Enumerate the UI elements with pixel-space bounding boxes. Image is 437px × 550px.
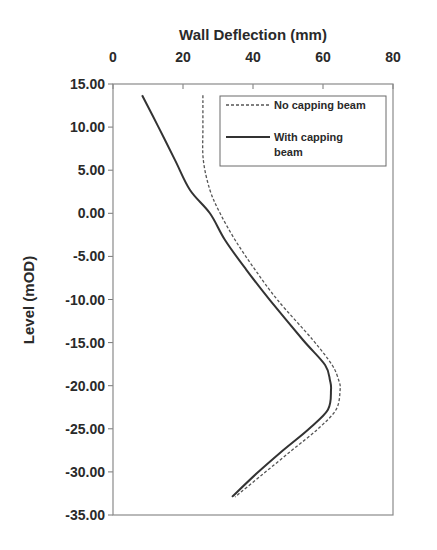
- x-tick-label: 80: [385, 49, 401, 65]
- y-tick-label: -5.00: [73, 248, 105, 264]
- y-tick-label: 5.00: [78, 162, 105, 178]
- x-tick-label: 0: [109, 49, 117, 65]
- y-tick-label: -10.00: [65, 292, 105, 308]
- y-tick-label: -20.00: [65, 378, 105, 394]
- y-axis-title: Level (mOD): [20, 256, 37, 344]
- legend-label-no-capping-beam: No capping beam: [274, 99, 366, 111]
- y-tick-label: -25.00: [65, 421, 105, 437]
- wall-deflection-chart: Wall Deflection (mm) Level (mOD) 0204060…: [0, 0, 437, 550]
- legend-label-with-capping-beam: With capping: [274, 131, 343, 143]
- y-tick-label: -15.00: [65, 335, 105, 351]
- legend: No capping beam With capping beam: [220, 96, 386, 166]
- y-tick-label: -30.00: [65, 464, 105, 480]
- y-axis-ticks: 15.0010.005.000.00-5.00-10.00-15.00-20.0…: [65, 76, 113, 523]
- x-tick-label: 40: [245, 49, 261, 65]
- x-axis-ticks: 020406080: [109, 49, 401, 89]
- y-tick-label: 10.00: [70, 119, 105, 135]
- legend-label-with-capping-beam-line2: beam: [274, 146, 303, 158]
- y-tick-label: 15.00: [70, 76, 105, 92]
- x-axis-title: Wall Deflection (mm): [179, 26, 327, 43]
- x-tick-label: 20: [175, 49, 191, 65]
- x-tick-label: 60: [315, 49, 331, 65]
- y-tick-label: -35.00: [65, 507, 105, 523]
- y-tick-label: 0.00: [78, 205, 105, 221]
